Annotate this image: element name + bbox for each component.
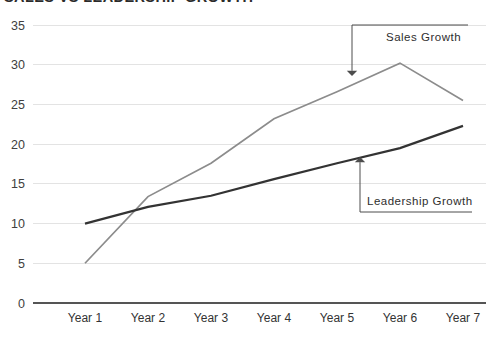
y-tick-label-10: 10 (11, 217, 25, 231)
annotation-label-leadership-growth: Leadership Growth (367, 195, 473, 207)
x-tick-label-year-5: Year 5 (320, 311, 355, 325)
y-axis-tick-labels: 05101520253035 (11, 19, 25, 311)
x-tick-label-year-7: Year 7 (446, 311, 481, 325)
series-line-sales-growth (85, 63, 463, 263)
y-tick-label-20: 20 (11, 138, 25, 152)
annotation-arrowhead-sales-growth (347, 71, 357, 76)
y-tick-label-5: 5 (18, 257, 25, 271)
line-chart-plot: 05101520253035 Year 1Year 2Year 3Year 4Y… (0, 0, 495, 344)
y-tick-label-35: 35 (11, 19, 25, 33)
annotation-label-sales-growth: Sales Growth (386, 31, 461, 43)
x-tick-label-year-4: Year 4 (257, 311, 292, 325)
x-axis-tick-labels: Year 1Year 2Year 3Year 4Year 5Year 6Year… (68, 311, 481, 325)
gridlines-group (33, 25, 486, 263)
y-tick-label-30: 30 (11, 58, 25, 72)
series-line-leadership-growth (85, 126, 463, 224)
x-tick-label-year-6: Year 6 (383, 311, 418, 325)
chart-container: SALES VS LEADERSHIP GROWTH 0510152025303… (0, 0, 495, 344)
x-tick-label-year-2: Year 2 (131, 311, 166, 325)
x-tick-label-year-3: Year 3 (194, 311, 229, 325)
x-tick-label-year-1: Year 1 (68, 311, 103, 325)
y-tick-label-0: 0 (18, 297, 25, 311)
y-tick-label-25: 25 (11, 98, 25, 112)
y-tick-label-15: 15 (11, 177, 25, 191)
data-series-group (85, 63, 463, 263)
